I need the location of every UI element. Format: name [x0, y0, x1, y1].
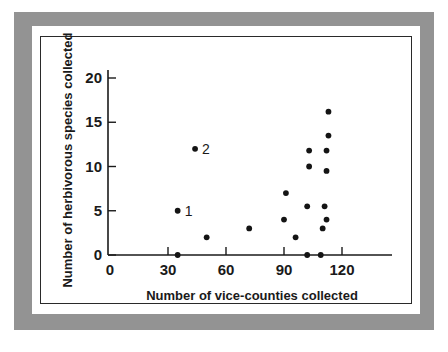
data-point: [204, 234, 210, 240]
y-tick-label-0: 0: [94, 246, 102, 263]
data-point: [324, 217, 330, 223]
data-point: [246, 226, 252, 232]
data-point: [175, 208, 181, 214]
y-axis-tick-labels: 05101520: [85, 69, 102, 263]
data-point: [293, 234, 299, 240]
data-point: [326, 133, 332, 139]
figure-root: 05101520 0306090120 12 Number of vice-co…: [0, 0, 448, 352]
y-tick-label-20: 20: [85, 69, 102, 86]
data-point: [318, 252, 324, 258]
y-tick-label-5: 5: [94, 202, 102, 219]
y-axis-ticks: [108, 78, 116, 255]
data-point: [281, 217, 287, 223]
data-point: [304, 203, 310, 209]
data-point: [192, 146, 198, 152]
y-tick-label-10: 10: [85, 158, 102, 175]
data-point: [324, 148, 330, 154]
point-annotations: 12: [185, 141, 210, 219]
data-point: [306, 164, 312, 170]
y-axis-title: Number of herbivorous species collected: [60, 32, 75, 287]
x-tick-label-120: 120: [329, 261, 354, 278]
scatter-chart: 05101520 0306090120 12 Number of vice-co…: [0, 0, 448, 352]
data-points: [175, 109, 332, 258]
data-point: [324, 168, 330, 174]
data-point: [175, 252, 181, 258]
x-tick-label-0: 0: [106, 261, 114, 278]
y-tick-label-15: 15: [85, 113, 102, 130]
x-axis-ticks: [168, 247, 342, 255]
data-point: [320, 226, 326, 232]
data-point: [304, 252, 310, 258]
data-point: [283, 190, 289, 196]
x-axis-title: Number of vice-counties collected: [146, 288, 358, 303]
data-point: [322, 203, 328, 209]
point-annotation-1: 1: [185, 203, 193, 219]
x-tick-label-30: 30: [160, 261, 177, 278]
x-axis-tick-labels: 0306090120: [106, 261, 355, 278]
point-annotation-2: 2: [202, 141, 210, 157]
x-tick-label-60: 60: [218, 261, 235, 278]
x-tick-label-90: 90: [276, 261, 293, 278]
data-point: [326, 109, 332, 115]
data-point: [306, 148, 312, 154]
